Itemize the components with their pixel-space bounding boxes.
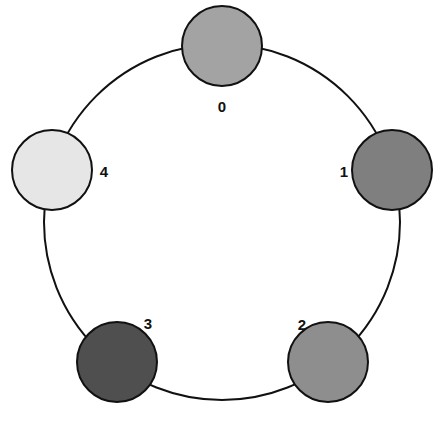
node-1: [352, 130, 432, 210]
node-3: [77, 322, 157, 402]
node-label-2: 2: [298, 316, 306, 333]
node-label-3: 3: [144, 315, 152, 332]
node-0: [182, 6, 262, 86]
node-label-0: 0: [218, 98, 226, 115]
ring-diagram: 01234: [0, 0, 444, 444]
node-group: 01234: [12, 6, 432, 402]
node-4: [12, 130, 92, 210]
node-label-4: 4: [100, 163, 109, 180]
node-2: [288, 322, 368, 402]
node-label-1: 1: [340, 163, 348, 180]
